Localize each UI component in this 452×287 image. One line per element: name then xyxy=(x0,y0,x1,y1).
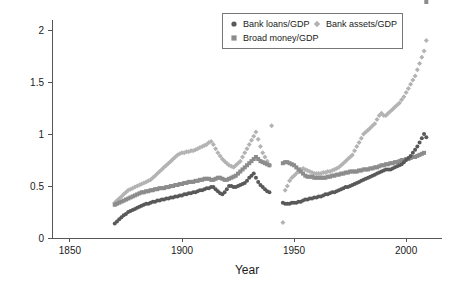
data-point xyxy=(258,144,263,149)
data-point xyxy=(256,137,261,142)
legend-label: Bank assets/GDP xyxy=(326,19,397,29)
x-axis-title: Year xyxy=(235,263,259,277)
data-point xyxy=(417,61,422,66)
data-point xyxy=(267,190,271,194)
data-point xyxy=(252,172,256,176)
data-point xyxy=(253,130,258,135)
data-point xyxy=(354,144,359,149)
data-point xyxy=(352,148,357,153)
data-point xyxy=(420,136,424,140)
data-point xyxy=(283,188,288,193)
data-point xyxy=(245,146,250,151)
data-point xyxy=(262,154,267,159)
data-point xyxy=(249,138,254,143)
y-tick-label: 1.5 xyxy=(30,77,44,88)
data-point xyxy=(260,150,265,155)
data-point xyxy=(280,220,285,225)
y-axis-ticks: 00.511.52 xyxy=(30,25,52,244)
chart-container: 00.511.521850190019502000YearBank loans/… xyxy=(0,0,452,287)
legend: Bank loans/GDPBank assets/GDPBroad money… xyxy=(222,13,402,48)
x-axis-ticks: 1850190019502000 xyxy=(59,238,418,256)
data-point xyxy=(269,123,274,128)
y-tick-label: 0 xyxy=(38,233,44,244)
data-point xyxy=(404,90,409,95)
y-tick-label: 1 xyxy=(38,129,44,140)
data-point xyxy=(413,73,418,78)
axes-group xyxy=(52,20,442,238)
data-point xyxy=(410,78,415,83)
data-point xyxy=(240,154,245,159)
data-point xyxy=(213,146,218,151)
data-point xyxy=(424,0,428,4)
data-point xyxy=(254,176,258,180)
data-point xyxy=(422,151,426,155)
data-point xyxy=(247,142,252,147)
data-point xyxy=(375,117,380,122)
scatter-chart: 00.511.521850190019502000YearBank loans/… xyxy=(0,0,452,287)
legend-marker-square xyxy=(231,35,236,40)
data-point xyxy=(418,140,422,144)
data-point xyxy=(408,82,413,87)
data-point xyxy=(424,38,429,43)
data-point xyxy=(419,55,424,60)
data-point xyxy=(285,184,290,189)
legend-marker-circle xyxy=(231,21,236,26)
series-circle xyxy=(113,132,429,225)
data-point xyxy=(415,67,420,72)
axis-lines xyxy=(52,20,442,238)
data-point xyxy=(251,134,256,139)
data-point xyxy=(242,150,247,155)
data-point xyxy=(422,49,427,54)
y-tick-label: 0.5 xyxy=(30,181,44,192)
x-tick-label: 1950 xyxy=(283,245,306,256)
data-point xyxy=(357,140,362,145)
x-tick-label: 1850 xyxy=(59,245,82,256)
y-tick-label: 2 xyxy=(38,25,44,36)
data-point xyxy=(415,145,419,149)
legend-label: Broad money/GDP xyxy=(243,33,319,43)
data-point xyxy=(424,135,428,139)
series-diamond xyxy=(112,38,429,225)
x-tick-label: 2000 xyxy=(395,245,418,256)
data-point xyxy=(267,163,271,167)
data-point xyxy=(359,136,364,141)
data-point xyxy=(406,86,411,91)
x-tick-label: 1900 xyxy=(171,245,194,256)
legend-label: Bank loans/GDP xyxy=(243,19,310,29)
